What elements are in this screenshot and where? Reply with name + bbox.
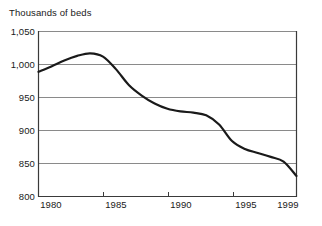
ytick-label-850: 850 <box>19 158 35 169</box>
data-line-hospital-beds <box>39 53 297 176</box>
xtick-label-1985: 1985 <box>105 199 127 210</box>
ytick-label-1050: 1,050 <box>11 26 35 37</box>
xtick-label-1980: 1980 <box>40 199 62 210</box>
y-axis-tick-labels: 1,050 1,000 950 900 850 800 <box>11 26 35 202</box>
ytick-label-950: 950 <box>19 92 35 103</box>
ytick-label-900: 900 <box>19 125 35 136</box>
gridlines-group <box>38 32 297 164</box>
x-axis-tick-labels: 1980 1985 1990 1995 1999 <box>40 199 299 210</box>
chart-container: Thousands of beds 1,050 1,000 950 900 85… <box>0 0 322 226</box>
ytick-label-1000: 1,000 <box>11 59 35 70</box>
line-chart-plot: 1,050 1,000 950 900 850 800 1980 1985 19… <box>0 0 322 226</box>
xtick-label-1999: 1999 <box>277 199 299 210</box>
ytick-label-800: 800 <box>19 191 35 202</box>
xtick-label-1990: 1990 <box>170 199 192 210</box>
xtick-label-1995: 1995 <box>235 199 257 210</box>
